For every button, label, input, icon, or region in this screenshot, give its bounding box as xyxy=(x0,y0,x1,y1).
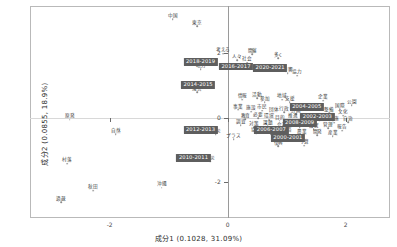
y-axis-tick xyxy=(224,182,228,183)
data-point xyxy=(332,136,334,138)
data-point-label: 原発 xyxy=(65,114,75,119)
data-point-label: 東京 xyxy=(192,21,202,26)
data-point-label: 必要 xyxy=(253,113,263,118)
year-bin-label: 2016-2017 xyxy=(219,63,253,71)
data-point xyxy=(252,53,254,55)
data-point xyxy=(256,97,258,99)
data-point-label: 中国 xyxy=(168,14,178,19)
data-point-label: 教育 xyxy=(241,113,251,118)
data-point xyxy=(236,59,238,61)
data-point-label: 推進 xyxy=(288,114,298,119)
data-point xyxy=(327,127,329,129)
data-point xyxy=(287,72,289,74)
data-point xyxy=(278,57,280,59)
data-point-label: 管理 xyxy=(323,122,333,127)
data-point xyxy=(281,99,283,101)
y-zero-axis-line xyxy=(228,6,229,218)
data-point-label: 調査 xyxy=(236,120,246,125)
data-point-label: 企業 xyxy=(318,95,328,100)
data-point-label: 事業 xyxy=(233,104,243,109)
y-axis-title: 成分2 (0.0855, 18.9%) xyxy=(39,82,49,165)
year-bin-label: 2018-2019 xyxy=(183,58,217,66)
y-axis-tick-label: 0 xyxy=(206,114,221,121)
data-point xyxy=(347,121,349,123)
data-point xyxy=(66,163,68,165)
data-point xyxy=(341,130,343,132)
data-point-label: 行政 xyxy=(279,107,289,112)
x-axis-title: 成分1 (0.1028, 31.09%) xyxy=(0,233,397,243)
data-point-label: 協力 xyxy=(292,70,302,75)
data-point xyxy=(215,134,217,136)
data-point xyxy=(196,26,198,28)
data-point xyxy=(238,109,240,111)
x-axis-tick xyxy=(110,118,111,122)
data-point-label: 施設 xyxy=(246,106,256,111)
y-axis-tick-label: -2 xyxy=(206,178,221,185)
data-point-label: 社会 xyxy=(242,57,252,62)
data-point xyxy=(251,111,253,113)
data-point-label: 文化 xyxy=(338,110,348,115)
year-bin-label: 2010-2011 xyxy=(176,154,210,162)
x-axis-tick-label: -2 xyxy=(102,221,118,228)
data-point-label: 産業 xyxy=(328,131,338,136)
data-point xyxy=(60,202,62,204)
x-axis-tick-label: 2 xyxy=(338,221,354,228)
data-point-label: 過疎 xyxy=(56,197,66,202)
data-point-label: 参加 xyxy=(260,96,270,101)
data-point-label: 沖縄 xyxy=(157,182,167,187)
data-point-label: 開発 xyxy=(313,129,323,134)
x-axis-tick xyxy=(228,118,229,122)
year-bin-label: 2012-2013 xyxy=(183,126,217,134)
data-point xyxy=(172,18,174,20)
data-point xyxy=(304,145,306,147)
data-point-label: 自然 xyxy=(111,129,121,134)
data-point xyxy=(297,75,299,77)
data-point-label: 考える xyxy=(216,48,231,53)
data-point-label: 自治 xyxy=(343,117,353,122)
data-point-label: 整備 xyxy=(324,107,334,112)
data-point-label: 課題 xyxy=(263,120,273,125)
data-point xyxy=(258,118,260,120)
year-bin-label: 2014-2015 xyxy=(181,81,215,89)
x-axis-tick-label-zero: 0 xyxy=(220,221,236,228)
year-bin-label: 2004-2005 xyxy=(290,103,324,111)
data-point xyxy=(240,125,242,127)
data-point xyxy=(92,190,94,192)
data-point xyxy=(196,92,198,94)
data-point xyxy=(323,100,325,102)
year-bin-label: 2000-2001 xyxy=(271,134,305,142)
data-point xyxy=(115,134,117,136)
data-point xyxy=(200,68,202,70)
data-point xyxy=(69,119,71,121)
data-point-label: 国際 xyxy=(335,104,345,109)
data-point-label: 情報 xyxy=(238,94,248,99)
data-point-label: 村落 xyxy=(62,158,72,163)
plot-frame xyxy=(30,6,390,218)
data-point-label: 公園 xyxy=(347,100,357,105)
data-point xyxy=(333,122,335,124)
data-point xyxy=(242,99,244,101)
data-point-label: 開催 xyxy=(248,49,258,54)
year-bin-label: 2006-2007 xyxy=(254,126,288,134)
data-point-label: 人々 xyxy=(232,54,242,59)
data-point xyxy=(264,101,266,103)
data-point-label: 秋田 xyxy=(88,185,98,190)
data-point xyxy=(161,187,163,189)
data-point-label: 環境 xyxy=(264,114,274,119)
data-point-label: 報告 xyxy=(337,125,347,130)
data-point-label: 市民 xyxy=(257,105,267,110)
data-point xyxy=(222,53,224,55)
scatter-plot-root: -202-220 中国東京考える開催多く地方人々社会影響協力運営情報活動参加地域… xyxy=(0,0,397,247)
data-point xyxy=(351,105,353,107)
data-point xyxy=(284,112,286,114)
data-point xyxy=(278,145,280,147)
data-point xyxy=(233,138,235,140)
data-point-label: プラス xyxy=(226,133,241,138)
year-bin-label: 2020-2021 xyxy=(253,64,287,72)
data-point xyxy=(317,134,319,136)
data-point-label: 支援 xyxy=(285,96,295,101)
data-point-label: 多く xyxy=(274,52,284,57)
y-axis-tick xyxy=(224,53,228,54)
